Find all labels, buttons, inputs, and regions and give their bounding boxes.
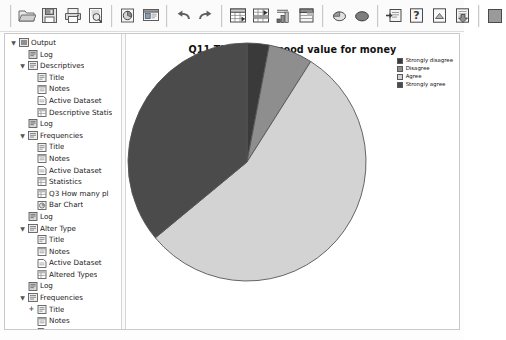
tree-node[interactable]: Notes [5,153,121,165]
insert-cases-button[interactable] [382,4,405,27]
main-toolbar: ? [0,0,464,32]
redo-button[interactable] [194,4,217,27]
goto-data-icon [229,7,247,24]
toolbar-separator [478,5,479,27]
tree-node[interactable]: Title [5,72,121,84]
legend-item: Strongly agree [397,81,453,88]
tree-node[interactable]: +Title [5,304,121,316]
dialog-recall-button[interactable] [139,4,162,27]
tree-node[interactable]: Notes [5,315,121,327]
tree-node[interactable]: ▼Frequencies [5,130,121,142]
output-item-icon [27,131,38,141]
stop-button[interactable] [483,4,506,27]
tree-node-label: Q3 How many pl [49,188,109,200]
undo-button[interactable] [171,4,194,27]
tree-node[interactable]: Log [5,280,121,292]
variables-button[interactable] [272,4,295,27]
output-item-icon [27,61,38,71]
output-contents-pane[interactable]: Q11 The play is good value for money Str… [126,34,459,329]
notes-icon [36,84,47,94]
outline-pane[interactable]: ▼OutputLog▼DescriptivesTitleNotesActive … [5,34,121,329]
open-file-button[interactable] [15,4,38,27]
tree-node-label: Active Dataset [49,95,102,107]
tree-node[interactable]: ▼Descriptives [5,60,121,72]
pie-chart-object[interactable]: Q11 The play is good value for money Str… [126,34,459,329]
select-cases-button[interactable] [350,4,373,27]
tree-node[interactable]: Notes [5,83,121,95]
legend-item: Disagree [397,65,453,72]
goto-case-button[interactable] [249,4,272,27]
toolbar-separator [322,5,323,27]
legend-label: Agree [406,73,422,80]
goto-data-button[interactable] [226,4,249,27]
tree-node[interactable]: Log [5,49,121,61]
tree-node-label: Log [40,49,53,61]
collapse-toggle-icon[interactable]: ▼ [18,131,27,140]
tree-node[interactable]: Log [5,211,121,223]
save-button[interactable] [38,4,61,27]
tree-node-label: Frequencies [40,292,83,304]
tree-node[interactable]: ▼Alter Type [5,223,121,235]
legend-label: Strongly agree [406,81,446,88]
tree-node-label: Altered Types [49,269,97,281]
tree-node[interactable]: Descriptive Statis [5,107,121,119]
viewer-split-pane: ▼OutputLog▼DescriptivesTitleNotesActive … [4,33,460,330]
magnifier-ball-icon [330,8,348,24]
tree-node[interactable]: Active Dataset [5,327,121,329]
expand-toggle-icon[interactable]: + [27,305,36,314]
dataset-icon [36,328,47,329]
output-item-icon [27,293,38,303]
title-icon [36,142,47,152]
promote-button[interactable] [451,4,474,27]
redo-arrow-icon [197,9,215,23]
collapse-toggle-icon[interactable]: ▼ [18,224,27,233]
tree-node[interactable]: Statistics [5,176,121,188]
tree-node[interactable]: Q3 How many pl [5,188,121,200]
print-button[interactable] [61,4,84,27]
tree-node[interactable]: Active Dataset [5,165,121,177]
tree-node[interactable]: ▼Output [5,37,121,49]
log-icon [27,281,38,291]
show-hide-button[interactable] [428,4,451,27]
svg-text:?: ? [413,9,419,22]
print-preview-button[interactable] [84,4,107,27]
toolbar-separator [10,5,11,27]
printer-icon [64,7,82,24]
tree-node[interactable]: Log [5,118,121,130]
tree-node[interactable]: Active Dataset [5,95,121,107]
legend-swatch-icon [397,58,403,64]
find-button[interactable] [327,4,350,27]
run-descriptives-button[interactable] [295,4,318,27]
tree-node-label: Frequencies [40,130,83,142]
tree-node[interactable]: ▼Frequencies [5,292,121,304]
table-icon [36,270,47,280]
toolbar-separator [111,5,112,27]
collapse-toggle-icon[interactable]: ▼ [9,38,18,47]
help-button[interactable]: ? [405,4,428,27]
tree-node-label: Notes [49,83,70,95]
collapse-toggle-icon[interactable]: ▼ [18,293,27,302]
tree-node-label: Descriptive Statis [49,107,112,119]
tree-node[interactable]: Title [5,141,121,153]
tree-node-label: Alter Type [40,223,76,235]
tree-node-label: Log [40,211,53,223]
collapse-toggle-icon[interactable]: ▼ [18,61,27,70]
tree-node[interactable]: Title [5,234,121,246]
tree-node-label: Title [49,72,64,84]
variables-icon [275,7,292,24]
tree-node[interactable]: Notes [5,246,121,258]
question-mark-icon: ? [408,7,425,24]
notes-icon [36,316,47,326]
export-button[interactable] [116,4,139,27]
output-navigation-tree[interactable]: ▼OutputLog▼DescriptivesTitleNotesActive … [5,34,121,329]
log-icon [27,49,38,59]
select-cases-icon [353,8,371,24]
tree-node[interactable]: Bar Chart [5,199,121,211]
tree-node-label: Bar Chart [49,199,83,211]
tree-node[interactable]: Altered Types [5,269,121,281]
legend-swatch-icon [397,74,403,80]
tree-node-label: Title [49,304,64,316]
notes-icon [36,154,47,164]
tree-node[interactable]: Active Dataset [5,257,121,269]
